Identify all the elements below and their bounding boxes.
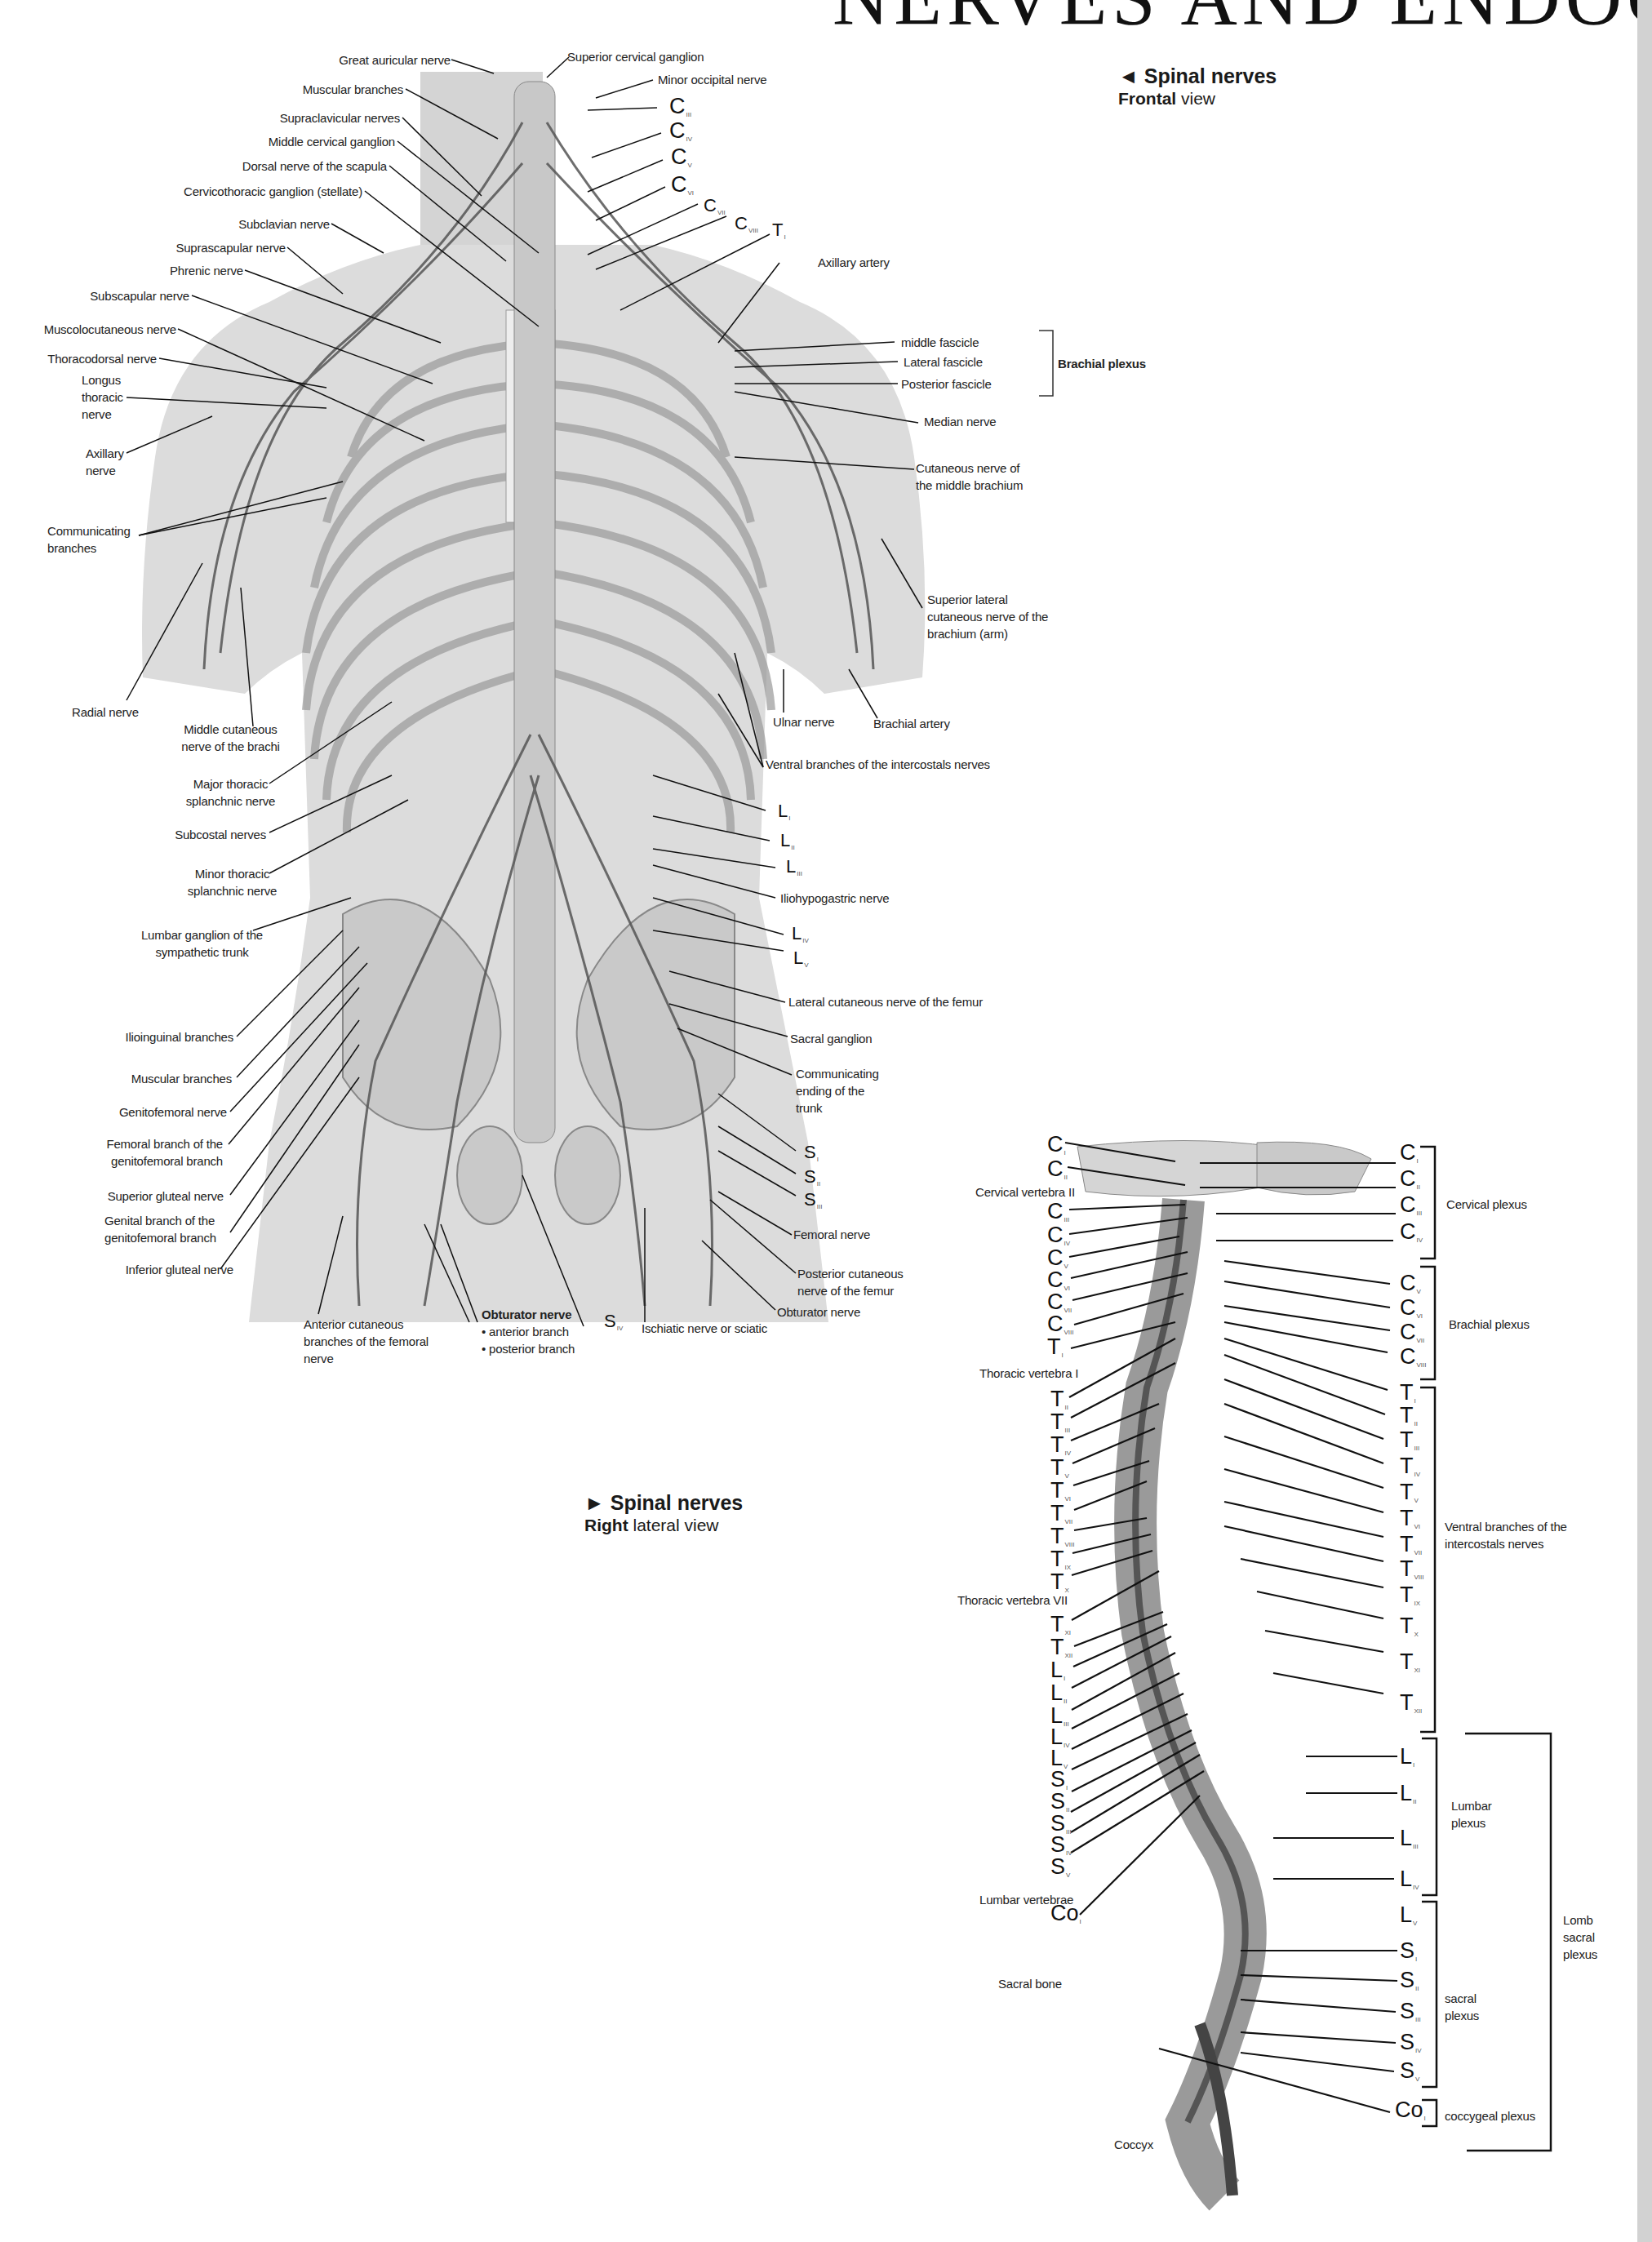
seg-right-l5: LV	[1400, 1903, 1417, 1935]
lateral-right-leader-lines	[1159, 1163, 1397, 2112]
seg-right-s1: SI	[1400, 1939, 1417, 1971]
label-subcostal-nerves: Subcostal nerves	[175, 826, 266, 843]
label-thoracic-vertebra-i: Thoracic vertebra I	[979, 1365, 1078, 1382]
right-arrow-icon: ►	[584, 1491, 605, 1514]
seg-right-l1: LI	[1400, 1745, 1414, 1777]
seg-right-t10: TX	[1400, 1614, 1419, 1646]
label-sacral-ganglion: Sacral ganglion	[790, 1030, 872, 1047]
label-inferior-gluteal-nerve: Inferior gluteal nerve	[126, 1261, 233, 1278]
label-lombosacral-plexus: Lomb sacral plexus	[1563, 1911, 1612, 1963]
label-ilioinguinal-branches: Ilioinguinal branches	[125, 1028, 233, 1046]
label-great-auricular-nerve: Great auricular nerve	[339, 51, 451, 69]
seg-frontal-t1: TI	[772, 219, 786, 249]
label-obturator-nerve-right: Obturator nerve	[777, 1303, 860, 1321]
lateral-view-heading: ► Spinal nerves Right lateral view	[584, 1490, 743, 1536]
label-axillary-artery: Axillary artery	[818, 254, 890, 271]
label-lumbar-ganglion-sympathetic: Lumbar ganglion of the sympathetic trunk	[135, 926, 269, 961]
label-posterior-cutaneous-femur: Posterior cutaneous nerve of the femur	[797, 1265, 920, 1299]
label-sacral-plexus: sacral plexus	[1445, 1990, 1494, 2024]
label-brachial-plexus-frontal: Brachial plexus	[1058, 355, 1146, 372]
label-posterior-fascicle: Posterior fascicle	[901, 375, 992, 393]
brachial-plexus-bracket	[1039, 331, 1053, 396]
label-coccyx: Coccyx	[1114, 2136, 1153, 2153]
seg-left-t1: TI	[1047, 1335, 1064, 1367]
label-brachial-plexus-lateral: Brachial plexus	[1449, 1316, 1530, 1333]
label-lumbar-vertebrae: Lumbar vertebrae	[979, 1891, 1073, 1908]
label-subscapular-nerve: Subscapular nerve	[90, 287, 189, 304]
label-obturator-posterior-branch: • posterior branch	[482, 1340, 575, 1357]
frontal-heading-bold: Frontal	[1118, 89, 1176, 108]
label-femoral-nerve: Femoral nerve	[793, 1226, 870, 1243]
lateral-spine-figure	[1077, 1141, 1371, 2196]
label-ischiatic-nerve: Ischiatic nerve or sciatic	[642, 1320, 767, 1337]
frontal-spine	[514, 82, 555, 1143]
label-superior-cervical-ganglion: Superior cervical ganglion	[567, 48, 704, 65]
label-obturator-nerve-title: Obturator nerve	[482, 1306, 575, 1323]
label-ulnar-nerve: Ulnar nerve	[773, 713, 834, 730]
label-middle-fascicle: middle fascicle	[901, 334, 979, 351]
label-longus-thoracic-nerve: Longus thoracic nerve	[82, 371, 139, 423]
seg-frontal-s3: SIII	[804, 1188, 822, 1219]
lateral-heading-bold: Right	[584, 1516, 628, 1534]
label-genitofemoral-nerve: Genitofemoral nerve	[119, 1103, 227, 1121]
frontal-heading-rest: view	[1176, 89, 1215, 108]
label-communicating-branches: Communicating branches	[47, 522, 145, 557]
frontal-heading-title: Spinal nerves	[1144, 64, 1277, 87]
seg-frontal-c7: CVII	[704, 194, 726, 224]
label-superior-lateral-cutaneous: Superior lateral cutaneous nerve of the …	[927, 591, 1050, 642]
label-muscular-branches-neck: Muscular branches	[303, 81, 403, 98]
seg-right-s2: SII	[1400, 1969, 1419, 2000]
label-ventral-intercostal-plexus: Ventral branches of the intercostals ner…	[1445, 1518, 1588, 1552]
seg-frontal-l5: LV	[793, 947, 809, 977]
left-arrow-icon: ◄	[1118, 64, 1139, 87]
label-thoracic-vertebra-vii: Thoracic vertebra VII	[957, 1592, 1068, 1609]
label-superior-gluteal-nerve: Superior gluteal nerve	[108, 1188, 224, 1205]
seg-frontal-c6: CVI	[671, 173, 694, 205]
label-cervical-vertebra-ii: Cervical vertebra II	[975, 1183, 1075, 1201]
label-supraclavicular-nerves: Supraclavicular nerves	[280, 109, 400, 127]
label-genital-branch-genitofemoral: Genital branch of the genitofemoral bran…	[104, 1212, 231, 1246]
seg-right-s5: SV	[1400, 2059, 1419, 2091]
seg-right-l2: LII	[1400, 1782, 1416, 1814]
seg-right-c4: CIV	[1400, 1220, 1423, 1252]
label-minor-occipital-nerve: Minor occipital nerve	[658, 71, 766, 88]
label-anterior-cutaneous-femoral: Anterior cutaneous branches of the femor…	[304, 1316, 442, 1367]
seg-left-s5: SV	[1050, 1855, 1070, 1887]
label-middle-cutaneous-brachi: Middle cutaneous nerve of the brachi	[175, 721, 286, 755]
lateral-heading-title: Spinal nerves	[611, 1491, 744, 1514]
label-iliohypogastric-nerve: Iliohypogastric nerve	[780, 890, 889, 907]
frontal-view-heading: ◄ Spinal nerves Frontal view	[1118, 64, 1277, 109]
label-phrenic-nerve: Phrenic nerve	[170, 262, 243, 279]
label-lateral-fascicle: Lateral fascicle	[904, 353, 983, 371]
label-ventral-branches-intercostals: Ventral branches of the intercostals ner…	[766, 756, 990, 773]
label-subclavian-nerve: Subclavian nerve	[238, 215, 330, 233]
label-muscular-branches-pelvis: Muscular branches	[131, 1070, 232, 1087]
seg-frontal-l3: LIII	[786, 855, 802, 886]
label-obturator-anterior-branch: • anterior branch	[482, 1323, 575, 1340]
label-radial-nerve: Radial nerve	[72, 704, 139, 721]
label-brachial-artery: Brachial artery	[873, 715, 950, 732]
label-muscolocutaneous-nerve: Muscolocutaneous nerve	[44, 321, 176, 338]
label-lateral-cutaneous-femur: Lateral cutaneous nerve of the femur	[788, 993, 983, 1010]
label-major-thoracic-splanchnic: Major thoracic splanchnic nerve	[180, 775, 282, 810]
label-cutaneous-nerve-middle-brachium: Cutaneous nerve of the middle brachium	[916, 459, 1038, 494]
label-sacral-bone: Sacral bone	[998, 1975, 1062, 1992]
label-median-nerve: Median nerve	[924, 413, 997, 430]
seg-right-c8: CVIII	[1400, 1345, 1427, 1377]
seg-frontal-c8: CVIII	[735, 212, 758, 242]
seg-right-t9: TIX	[1400, 1583, 1420, 1615]
label-axillary-nerve: Axillary nerve	[86, 445, 135, 479]
label-coccygeal-plexus: coccygeal plexus	[1445, 2107, 1535, 2124]
label-communicating-ending-trunk: Communicating ending of the trunk	[796, 1065, 886, 1117]
label-cervicothoracic-ganglion: Cervicothoracic ganglion (stellate)	[184, 183, 362, 200]
seg-frontal-l1: LI	[778, 800, 790, 830]
obturator-nerve-group: Obturator nerve • anterior branch • post…	[482, 1306, 575, 1357]
lateral-heading-rest: lateral view	[628, 1516, 719, 1534]
label-dorsal-nerve-scapula: Dorsal nerve of the scapula	[242, 158, 387, 175]
label-lumbar-plexus: Lumbar plexus	[1451, 1797, 1500, 1831]
label-suprascapular-nerve: Suprascapular nerve	[175, 239, 286, 256]
label-cervical-plexus: Cervical plexus	[1446, 1196, 1527, 1213]
seg-right-t12: TXII	[1400, 1691, 1422, 1723]
seg-right-l4: LIV	[1400, 1867, 1419, 1899]
seg-right-s3: SIII	[1400, 2000, 1421, 2031]
